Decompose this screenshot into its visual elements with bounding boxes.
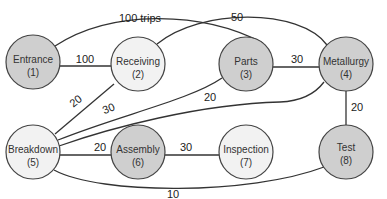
node-breakdown-id: (5)	[27, 157, 39, 168]
node-entrance-id: (1)	[27, 67, 39, 78]
node-receiving-id: (2)	[132, 69, 144, 80]
edge-label-entrance-receiving: 100	[76, 53, 94, 65]
edge-label-assembly-inspection: 30	[180, 141, 192, 153]
node-metallurgy-id: (4)	[340, 69, 352, 80]
node-test-id: (8)	[340, 155, 352, 166]
node-entrance-name: Entrance	[13, 54, 53, 65]
node-assembly: Assembly (6)	[111, 125, 165, 179]
edge-label-breakdown-test: 10	[167, 188, 179, 199]
edge-label-metallurgy-test: 20	[351, 101, 363, 113]
node-breakdown-name: Breakdown	[8, 144, 58, 155]
node-test: Test (8)	[319, 125, 373, 179]
node-metallurgy-name: Metallurgy	[323, 56, 369, 67]
edge-label-parts-metallurgy: 30	[291, 53, 303, 65]
node-entrance: Entrance (1)	[6, 35, 60, 89]
node-parts-name: Parts	[234, 56, 257, 67]
node-assembly-name: Assembly	[116, 144, 159, 155]
edge-label-breakdown-assembly: 20	[94, 141, 106, 153]
flow-diagram: 100 trips 100 50 30 20 30 20 20 30 20 10…	[0, 0, 387, 199]
node-parts-id: (3)	[240, 69, 252, 80]
edge-label-entrance-parts: 100 trips	[119, 12, 162, 24]
node-inspection: Inspection (7)	[219, 125, 273, 179]
edge-label-receiving-metallurgy: 50	[231, 11, 243, 23]
node-test-name: Test	[337, 142, 356, 153]
edge-label-breakdown-receiving: 20	[67, 92, 84, 109]
node-metallurgy: Metallurgy (4)	[319, 37, 373, 91]
node-inspection-id: (7)	[240, 157, 252, 168]
node-receiving: Receiving (2)	[111, 37, 165, 91]
edge-breakdown-test	[54, 167, 324, 188]
node-breakdown: Breakdown (5)	[6, 125, 60, 179]
edge-label-breakdown-metallurgy: 20	[204, 91, 216, 103]
node-inspection-name: Inspection	[223, 144, 269, 155]
edge-breakdown-metallurgy	[59, 82, 324, 146]
node-parts: Parts (3)	[219, 37, 273, 91]
node-assembly-id: (6)	[132, 157, 144, 168]
edge-label-breakdown-parts: 30	[101, 100, 117, 116]
node-receiving-name: Receiving	[116, 56, 160, 67]
